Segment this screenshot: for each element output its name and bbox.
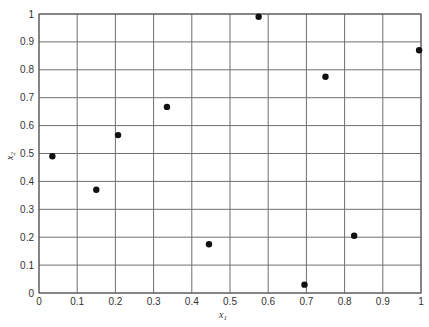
y-tick-label: 0.4	[20, 176, 34, 187]
y-tick-label: 0.1	[20, 260, 34, 271]
y-tick-label: 0.3	[20, 204, 34, 215]
scatter-chart: 00.10.20.30.40.50.60.70.80.91 00.10.20.3…	[0, 0, 429, 327]
y-tick-label: 0.9	[20, 36, 34, 47]
data-points	[49, 14, 422, 288]
y-tick-label: 0.7	[20, 92, 34, 103]
x-tick-label: 1	[418, 296, 424, 307]
x-tick-label: 0.5	[223, 296, 237, 307]
y-tick-label: 0.8	[20, 64, 34, 75]
data-point	[416, 47, 422, 53]
x-tick-label: 0	[36, 296, 42, 307]
x-tick-label: 0.1	[70, 296, 84, 307]
data-point	[164, 104, 170, 110]
x-tick-label: 0.4	[185, 296, 199, 307]
x-tick-label: 0.9	[376, 296, 390, 307]
data-point	[255, 14, 261, 20]
x-axis-label: x1	[218, 309, 227, 322]
x-tick-label: 0.2	[108, 296, 122, 307]
y-tick-label: 0	[28, 288, 34, 299]
x-tick-label: 0.7	[299, 296, 313, 307]
x-tick-label: 0.3	[147, 296, 161, 307]
data-point	[49, 153, 55, 159]
x-tick-labels: 00.10.20.30.40.50.60.70.80.91	[36, 296, 424, 307]
y-tick-label: 1	[28, 9, 34, 20]
x-tick-label: 0.6	[261, 296, 275, 307]
grid-lines	[39, 14, 421, 293]
data-point	[93, 187, 99, 193]
data-point	[301, 281, 307, 287]
y-tick-label: 0.6	[20, 120, 34, 131]
x-tick-label: 0.8	[338, 296, 352, 307]
data-point	[322, 74, 328, 80]
y-axis-label: x2	[4, 152, 17, 161]
y-tick-label: 0.5	[20, 148, 34, 159]
data-point	[206, 241, 212, 247]
y-tick-label: 0.2	[20, 232, 34, 243]
data-point	[351, 233, 357, 239]
data-point	[115, 132, 121, 138]
y-tick-labels: 00.10.20.30.40.50.60.70.80.91	[20, 9, 34, 299]
